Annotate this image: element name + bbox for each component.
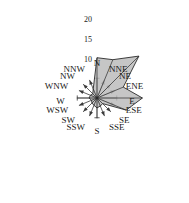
direction-label-s: S [94,126,99,136]
direction-label-ese: ESE [126,105,143,115]
wind-rose-chart: NNNENEENEEESESESSESSSWSWWSWWWNWNWNNW 101… [0,0,189,203]
direction-label-sw: SW [61,115,75,125]
direction-label-w: W [56,96,65,106]
direction-label-n: N [94,58,101,68]
radial-axis-label-10: 10 [84,55,92,64]
spoke-arrowhead [79,102,84,105]
direction-label-nnw: NNW [64,64,86,74]
spoke-arrowhead [90,111,93,116]
direction-label-wsw: WSW [46,105,69,115]
radial-axis-label-20: 20 [84,15,92,24]
spoke-arrowhead [79,91,84,94]
wind-rose-svg: NNNENEENEEESESESSESSSWSWWSWWWNWNWNNW 101… [0,0,189,203]
direction-label-ene: ENE [126,81,144,91]
direction-label-sse: SSE [109,122,125,132]
radial-axis-label-15: 15 [84,35,92,44]
direction-label-ne: NE [119,71,131,81]
radial-tick-labels-group: 101520 [84,15,92,64]
direction-label-wnw: WNW [45,81,69,91]
spoke-arrowhead [90,80,93,85]
spoke-arrowhead [101,111,104,116]
